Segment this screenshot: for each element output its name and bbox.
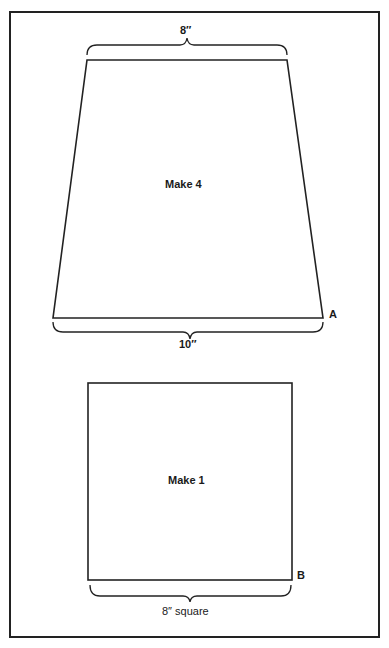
top-dimension-label: 8″ xyxy=(180,24,191,36)
bottom-brace-a xyxy=(53,322,323,339)
bottom-dimension-label-a: 10″ xyxy=(179,338,197,350)
piece-b-label: B xyxy=(297,569,305,581)
piece-a-label: A xyxy=(329,308,337,320)
bottom-brace-b xyxy=(90,585,291,602)
pattern-diagram xyxy=(0,0,389,648)
top-brace xyxy=(87,38,287,55)
make-4-label: Make 4 xyxy=(165,178,202,190)
bottom-dimension-label-b: 8″ square xyxy=(162,605,209,617)
make-1-label: Make 1 xyxy=(168,474,205,486)
